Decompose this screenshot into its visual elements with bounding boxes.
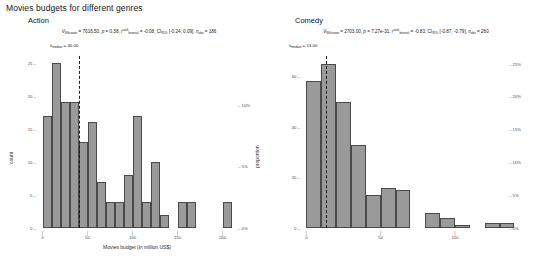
x-tick-label: │150 [174,232,181,240]
x-tick-label: │0 [41,232,44,240]
histogram-bar [440,218,455,228]
median-line-action [79,56,80,228]
stat-r-sub: biserial [399,31,409,35]
panel-comedy: Comedy VWilcoxon = 2703.00, p = 7.27e-31… [267,16,535,263]
x-tick-label: │100 [451,232,458,240]
stat-p-value: 7.27e-31 [371,29,389,34]
histogram-bar [70,102,79,228]
median-line-comedy [326,56,327,228]
x-tick-label: │200 [219,232,226,240]
y-axis-secondary-label-action: proportion [254,145,260,168]
histogram-bar [52,63,61,228]
histogram-bars-comedy [302,56,507,228]
histogram-bar [88,122,97,228]
y-axis-label-action: count [8,152,14,164]
y-tick-label: 0 – [30,226,38,231]
histogram-bar [160,215,169,228]
stat-n-value: 260 [481,29,489,34]
y-tick-label: 20 – [28,93,38,98]
y-tick-secondary-label: – 10% [236,102,250,107]
stat-r-value: -0.08 [144,29,154,34]
x-tick-label: │0 [305,232,308,240]
stat-p-label: p [102,29,105,34]
histogram-bars-action [38,56,236,228]
stat-p-label: p [363,29,366,34]
stat-n-sub: obs [198,31,203,35]
histogram-bar [455,225,470,228]
median-label-comedy: x̂median = 13.00 [289,43,317,49]
histogram-bar [321,64,336,228]
histogram-bar [178,202,187,228]
panel-title-action: Action [28,16,49,25]
stat-p-value: 0.38 [110,29,119,34]
plot-area-comedy: 0 –20 –40 –60 – – 0%– 5%– 10%– 15%– 20%–… [302,56,507,228]
x-tick-label: │50 [85,232,90,240]
y-tick-label: 5 – [30,192,38,197]
histogram-bar [43,116,52,228]
median-value: 13.00 [306,43,317,48]
median-sub: median [291,45,301,49]
histogram-bar [336,102,351,228]
histogram-bar [97,182,106,228]
histogram-bar [351,145,366,228]
histogram-bar [142,202,151,228]
histogram-bar [485,223,500,228]
panel-title-comedy: Comedy [295,16,323,25]
y-tick-label: 10 – [28,159,38,164]
stat-v-value: 7616.50 [83,29,100,34]
y-tick-secondary-label: – 0% [507,226,519,231]
y-tick-secondary-label: – 20% [507,94,521,99]
y-tick-label: 60 – [292,74,302,79]
stats-subtitle-comedy: VWilcoxon = 2703.00, p = 7.27e-31, rrank… [281,28,531,35]
histogram-bar [151,162,160,228]
y-tick-secondary-label: – 5% [236,164,248,169]
stat-ci-sub: 95% [432,31,438,35]
histogram-bar [381,188,396,228]
median-value: 40.00 [67,43,78,48]
stats-subtitle-action: VWilcoxon = 7616.50, p = 0.38, rrankbise… [14,28,264,35]
y-tick-secondary-label: – 5% [507,193,519,198]
y-tick-label: 15 – [28,126,38,131]
stat-ci-value: [-0.87, -0.79] [440,29,466,34]
histogram-bar [396,190,411,228]
y-tick-secondary-label: – 0% [236,226,248,231]
page-title: Movies budgets for different genres [6,3,143,13]
histogram-bar [425,213,440,228]
histogram-bar [115,202,124,228]
panel-action: Action VWilcoxon = 7616.50, p = 0.38, rr… [0,16,268,263]
x-tick-label: │50 [378,232,383,240]
histogram-bar [124,175,133,228]
x-tick-label: │100 [129,232,136,240]
histogram-bar [223,202,232,228]
stat-n-value: 186 [209,29,217,34]
histogram-bar [366,195,381,228]
histogram-bar [79,142,88,228]
stat-ci-value: [-0.24, 0.09] [169,29,194,34]
histogram-bar [306,81,321,228]
y-tick-secondary-label: – 25% [507,61,521,66]
stat-v-sub: Wilcoxon [326,31,339,35]
stat-r-value: -0.83 [414,29,424,34]
median-label-action: x̂median = 40.00 [50,43,78,49]
median-sub: median [52,45,62,49]
x-axis-label-action: Movies budget (in million US$) [38,244,236,250]
y-tick-secondary-label: – 10% [507,160,521,165]
histogram-bar [61,102,70,228]
plot-area-action: 0 –5 –10 –15 –20 –25 – – 0%– 5%– 10% │0│… [38,56,236,228]
y-tick-label: 25 – [28,60,38,65]
histogram-bar [106,202,115,228]
stat-n-sub: obs [471,31,476,35]
histogram-bar [133,116,142,228]
stat-r-sub: biserial [129,31,139,35]
y-tick-label: 20 – [292,175,302,180]
y-tick-secondary-label: – 15% [507,127,521,132]
stat-v-sub: Wilcoxon [65,31,78,35]
stat-v-value: 2703.00 [344,29,361,34]
stat-ci-sub: 95% [161,31,167,35]
y-tick-label: 0 – [294,226,302,231]
histogram-bar [187,202,196,228]
y-tick-label: 40 – [292,124,302,129]
